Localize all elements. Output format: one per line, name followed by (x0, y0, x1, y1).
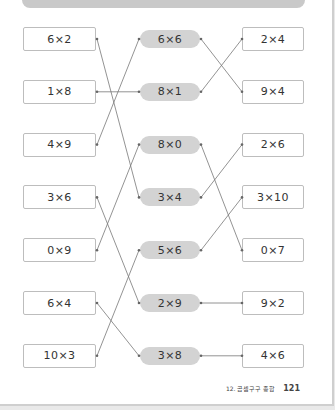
left-expression-box-2[interactable]: 1×8 (23, 80, 96, 104)
left-expression-box-label: 4×9 (47, 138, 72, 151)
connection-dot (96, 355, 99, 358)
right-expression-box-4[interactable]: 3×10 (242, 185, 304, 209)
connection-dot (200, 91, 203, 94)
line-middle-to-right (201, 39, 242, 92)
connection-dot (96, 143, 99, 146)
header-banner (22, 0, 305, 8)
middle-expression-pill-label: 8×0 (158, 138, 183, 151)
connection-dot (200, 38, 203, 41)
left-expression-box-label: 10×3 (43, 349, 75, 362)
left-expression-box-label: 1×8 (47, 85, 72, 98)
line-middle-to-right (201, 39, 242, 92)
connection-dot (200, 249, 203, 252)
left-expression-box-label: 6×2 (47, 33, 72, 46)
left-expression-box-5[interactable]: 0×9 (23, 238, 96, 262)
line-middle-to-right (201, 145, 242, 251)
middle-expression-pill-label: 8×1 (158, 85, 183, 98)
page-footer: 12. 곱셈구구 종합 121 (226, 384, 300, 393)
left-expression-box-label: 0×9 (47, 244, 72, 257)
middle-expression-pill-1[interactable]: 6×6 (140, 30, 200, 48)
left-expression-box-label: 3×6 (47, 191, 72, 204)
left-expression-box-3[interactable]: 4×9 (23, 133, 96, 157)
right-expression-box-1[interactable]: 2×4 (242, 27, 304, 51)
right-expression-box-3[interactable]: 2×6 (242, 133, 304, 157)
connection-dot (200, 355, 203, 358)
right-expression-box-2[interactable]: 9×4 (242, 80, 304, 104)
right-expression-box-6[interactable]: 9×2 (242, 291, 304, 315)
middle-expression-pill-7[interactable]: 3×8 (140, 347, 200, 365)
left-expression-box-4[interactable]: 3×6 (23, 185, 96, 209)
right-expression-box-7[interactable]: 4×6 (242, 344, 304, 368)
connection-dot (200, 196, 203, 199)
connection-dot (96, 38, 99, 41)
connection-dot (200, 302, 203, 305)
page-number: 121 (283, 384, 300, 393)
middle-expression-pill-4[interactable]: 3×4 (140, 188, 200, 206)
right-expression-box-5[interactable]: 0×7 (242, 238, 304, 262)
line-middle-to-right (201, 145, 242, 198)
chapter-label: 12. 곱셈구구 종합 (226, 384, 275, 393)
connection-dot (96, 91, 99, 94)
connection-dot (200, 143, 203, 146)
right-expression-box-label: 3×10 (257, 191, 289, 204)
middle-expression-pill-6[interactable]: 2×9 (140, 294, 200, 312)
middle-expression-pill-5[interactable]: 5×6 (140, 241, 200, 259)
left-expression-box-6[interactable]: 6×4 (23, 291, 96, 315)
middle-expression-pill-label: 6×6 (158, 33, 183, 46)
right-expression-box-label: 9×2 (261, 297, 286, 310)
middle-expression-pill-2[interactable]: 8×1 (140, 83, 200, 101)
connection-dot (96, 302, 99, 305)
line-left-to-middle (97, 197, 139, 303)
line-left-to-middle (97, 39, 139, 197)
line-left-to-middle (97, 145, 139, 251)
worksheet-page: 6×21×84×93×60×96×410×3 6×68×18×03×45×62×… (0, 0, 334, 406)
right-expression-box-label: 0×7 (261, 244, 286, 257)
line-left-to-middle (97, 39, 139, 145)
left-expression-box-7[interactable]: 10×3 (23, 344, 96, 368)
right-expression-box-label: 2×6 (261, 138, 286, 151)
right-expression-box-label: 4×6 (261, 349, 286, 362)
connection-dot (96, 196, 99, 199)
middle-expression-pill-label: 5×6 (158, 244, 183, 257)
connection-dot (96, 249, 99, 252)
right-expression-box-label: 9×4 (261, 85, 286, 98)
middle-expression-pill-label: 3×8 (158, 349, 183, 362)
middle-expression-pill-label: 3×4 (158, 191, 183, 204)
left-expression-box-1[interactable]: 6×2 (23, 27, 96, 51)
left-expression-box-label: 6×4 (47, 297, 72, 310)
middle-expression-pill-3[interactable]: 8×0 (140, 136, 200, 154)
line-left-to-middle (97, 250, 139, 356)
right-expression-box-label: 2×4 (261, 33, 286, 46)
line-left-to-middle (97, 303, 139, 356)
line-middle-to-right (201, 197, 242, 250)
middle-expression-pill-label: 2×9 (158, 297, 183, 310)
